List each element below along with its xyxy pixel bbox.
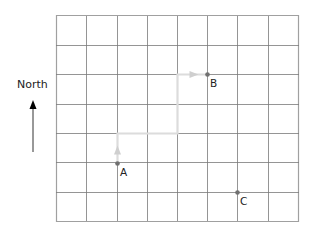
route-path	[114, 71, 208, 164]
point-label-c: C	[240, 196, 247, 207]
grid-map-diagram: North A B C	[0, 0, 313, 231]
route-line	[118, 75, 208, 164]
north-label: North	[17, 79, 48, 90]
point-label-b: B	[210, 78, 217, 89]
route-arrow-right-icon	[190, 71, 199, 78]
route-arrow-up-icon	[114, 146, 121, 155]
point-label-a: A	[120, 167, 127, 178]
north-arrow-icon	[30, 100, 37, 152]
map-canvas	[0, 0, 313, 231]
